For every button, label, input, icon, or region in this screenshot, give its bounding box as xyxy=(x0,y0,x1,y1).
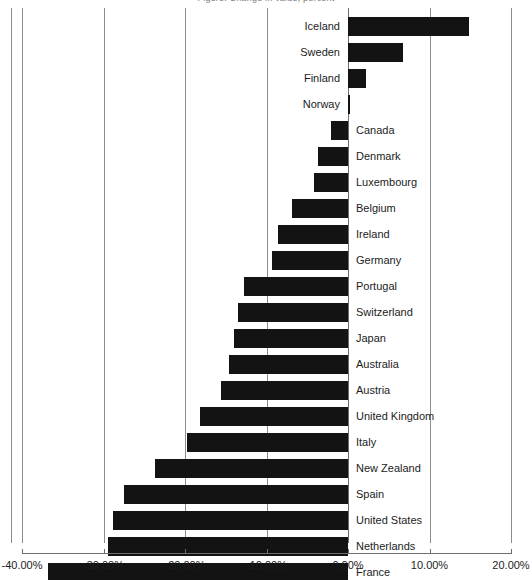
bar-row: Portugal xyxy=(0,274,532,300)
bar-label-iceland: Iceland xyxy=(305,19,340,33)
bar-sweden xyxy=(348,43,403,62)
bar-label-denmark: Denmark xyxy=(356,149,401,163)
x-axis: -40.00%-30.00%-20.00%-10.00%0.00%10.00%2… xyxy=(0,553,532,580)
bar-label-united-kingdom: United Kingdom xyxy=(356,409,434,423)
bar-row: Spain xyxy=(0,482,532,508)
x-tick xyxy=(430,549,431,554)
bar-row: Canada xyxy=(0,118,532,144)
bar-label-canada: Canada xyxy=(356,123,395,137)
bar-label-finland: Finland xyxy=(304,71,340,85)
bar-spain xyxy=(124,485,348,504)
bar-row: Denmark xyxy=(0,144,532,170)
x-tick-label: 10.00% xyxy=(411,558,448,572)
bar-ireland xyxy=(278,225,348,244)
bar-row: Germany xyxy=(0,248,532,274)
x-tick-label: 0.00% xyxy=(332,558,363,572)
bar-label-austria: Austria xyxy=(356,383,390,397)
bar-row: Australia xyxy=(0,352,532,378)
x-tick xyxy=(22,549,23,554)
x-tick-label: -10.00% xyxy=(246,558,287,572)
bar-row: Switzerland xyxy=(0,300,532,326)
bar-belgium xyxy=(292,199,348,218)
bar-label-switzerland: Switzerland xyxy=(356,305,413,319)
bar-row: Sweden xyxy=(0,40,532,66)
x-tick-label: -20.00% xyxy=(165,558,206,572)
bar-row: Ireland xyxy=(0,222,532,248)
bar-label-germany: Germany xyxy=(356,253,401,267)
bar-luxembourg xyxy=(314,173,348,192)
x-tick-label: -30.00% xyxy=(83,558,124,572)
bar-new-zealand xyxy=(155,459,348,478)
bar-label-ireland: Ireland xyxy=(356,227,390,241)
bars-group: IcelandSwedenFinlandNorwayCanadaDenmarkL… xyxy=(0,0,532,543)
x-tick xyxy=(185,549,186,554)
bar-row: Belgium xyxy=(0,196,532,222)
bar-united-kingdom xyxy=(200,407,348,426)
x-tick xyxy=(511,549,512,554)
bar-italy xyxy=(187,433,348,452)
bar-label-australia: Australia xyxy=(356,357,399,371)
bar-label-netherlands: Netherlands xyxy=(356,539,415,553)
bar-switzerland xyxy=(238,303,348,322)
x-tick xyxy=(348,549,349,554)
bar-row: Iceland xyxy=(0,14,532,40)
bar-iceland xyxy=(348,17,469,36)
bar-label-italy: Italy xyxy=(356,435,376,449)
bar-row: New Zealand xyxy=(0,456,532,482)
bar-row: Luxembourg xyxy=(0,170,532,196)
bar-label-norway: Norway xyxy=(303,97,340,111)
bar-row: Finland xyxy=(0,66,532,92)
horizontal-bar-chart: Figure: Change in value, percent Iceland… xyxy=(0,0,532,580)
bar-germany xyxy=(272,251,348,270)
x-tick xyxy=(267,549,268,554)
bar-canada xyxy=(331,121,348,140)
bar-row: Italy xyxy=(0,430,532,456)
bar-row: United Kingdom xyxy=(0,404,532,430)
bar-label-sweden: Sweden xyxy=(300,45,340,59)
bar-label-belgium: Belgium xyxy=(356,201,396,215)
bar-norway xyxy=(348,95,350,114)
bar-label-luxembourg: Luxembourg xyxy=(356,175,417,189)
bar-austria xyxy=(221,381,348,400)
bar-row: Japan xyxy=(0,326,532,352)
bar-label-portugal: Portugal xyxy=(356,279,397,293)
bar-row: Norway xyxy=(0,92,532,118)
bar-row: United States xyxy=(0,508,532,534)
x-tick-label: -40.00% xyxy=(2,558,43,572)
bar-australia xyxy=(229,355,348,374)
bar-united-states xyxy=(113,511,348,530)
bar-label-spain: Spain xyxy=(356,487,384,501)
bar-row: Austria xyxy=(0,378,532,404)
x-tick xyxy=(104,549,105,554)
bar-label-japan: Japan xyxy=(356,331,386,345)
x-tick-label: 20.00% xyxy=(492,558,529,572)
bar-label-united-states: United States xyxy=(356,513,422,527)
bar-portugal xyxy=(244,277,348,296)
bar-label-new-zealand: New Zealand xyxy=(356,461,421,475)
bar-finland xyxy=(348,69,366,88)
bar-denmark xyxy=(318,147,348,166)
bar-japan xyxy=(234,329,348,348)
